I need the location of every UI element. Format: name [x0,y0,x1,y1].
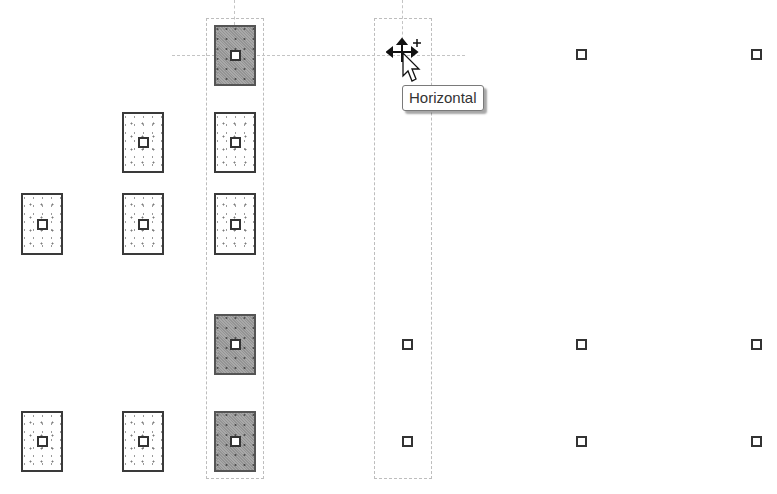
column-marker [138,137,149,148]
tooltip: Horizontal [402,85,484,111]
column-marker [37,436,48,447]
column-marker [230,436,241,447]
drawing-canvas[interactable]: Horizontal [0,0,777,494]
footing-selected[interactable] [214,25,256,86]
footing[interactable] [122,411,164,472]
footing-selected[interactable] [214,411,256,472]
column-marker [37,219,48,230]
footing[interactable] [21,193,63,255]
column-marker [138,219,149,230]
column-marker[interactable] [402,339,413,350]
tooltip-text: Horizontal [409,89,477,106]
column-marker[interactable] [751,339,762,350]
column-marker[interactable] [576,49,587,60]
column-marker [138,436,149,447]
column-marker[interactable] [576,436,587,447]
footing[interactable] [122,112,164,173]
column-marker[interactable] [751,49,762,60]
column-marker [230,339,241,350]
footing[interactable] [214,112,256,173]
footing[interactable] [122,193,164,255]
column-marker [230,219,241,230]
column-marker [230,137,241,148]
footing-selected[interactable] [214,314,256,375]
column-marker[interactable] [751,436,762,447]
footing[interactable] [21,411,63,472]
footing[interactable] [214,193,256,255]
column-marker [230,50,241,61]
column-marker[interactable] [402,436,413,447]
column-marker[interactable] [576,339,587,350]
move-cursor-icon [386,36,426,86]
vertical-guide-line-col3 [234,0,235,25]
